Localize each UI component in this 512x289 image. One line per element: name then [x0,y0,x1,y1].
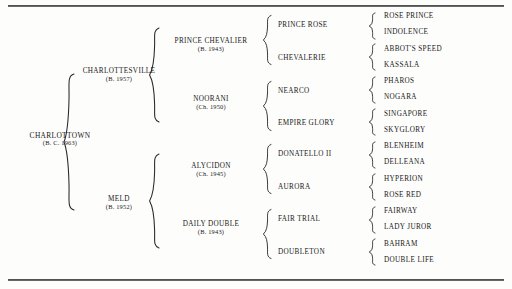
pedigree-node-kassala: KASSALA [384,62,494,70]
node-year: (B. 1943) [164,229,258,236]
node-year: (B. C. 1963) [10,140,110,147]
pedigree-node-meld: MELD (B. 1952) [70,196,168,211]
node-name: INDOLENCE [384,29,494,37]
pedigree-node-prince-chevalier: PRINCE CHEVALIER (B. 1943) [164,38,258,53]
pedigree-node-fair-trial: FAIR TRIAL [278,216,364,224]
node-name: DOUBLE LIFE [384,257,494,265]
pedigree-node-double-life: DOUBLE LIFE [384,257,494,265]
brace-daily-double-to-gen4 [262,208,273,260]
node-name: NEARCO [278,88,364,96]
node-name: DOUBLETON [278,249,364,257]
brace-doubleton-to-gen5 [368,238,377,266]
node-name: FAIR TRIAL [278,216,364,224]
node-name: ROSE PRINCE [384,13,494,21]
node-name: CHEVALERIE [278,55,364,63]
pedigree-node-nogara: NOGARA [384,94,494,102]
node-name: HYPERION [384,176,494,184]
pedigree-node-blenheim: BLENHEIM [384,143,494,151]
bottom-horizontal-rule [8,279,504,281]
brace-fair-trial-to-gen5 [368,206,377,234]
node-year: (B. 1943) [164,46,258,53]
node-name: DELLEANA [384,159,494,167]
pedigree-node-charlottown: CHARLOTTOWN (B. C. 1963) [10,132,110,147]
node-name: ROSE RED [384,192,494,200]
brace-prince-chevalier-to-gen4 [262,14,273,66]
node-name: FAIRWAY [384,208,494,216]
node-name: KASSALA [384,62,494,70]
node-name: SKYGLORY [384,127,494,135]
pedigree-node-delleana: DELLEANA [384,159,494,167]
node-name: NOGARA [384,94,494,102]
node-name: PHAROS [384,78,494,86]
pedigree-node-singapore: SINGAPORE [384,111,494,119]
node-name: BAHRAM [384,241,494,249]
node-year: (Ch. 1950) [164,104,258,111]
pedigree-node-prince-rose: PRINCE ROSE [278,22,364,30]
node-name: ABBOT'S SPEED [384,46,494,54]
brace-prince-rose-to-gen5 [368,12,377,40]
pedigree-node-indolence: INDOLENCE [384,29,494,37]
pedigree-node-donatello-ii: DONATELLO II [278,151,364,159]
node-year: (B. 1957) [70,76,168,83]
node-name: PRINCE ROSE [278,22,364,30]
pedigree-node-chevalerie: CHEVALERIE [278,55,364,63]
node-name: DONATELLO II [278,151,364,159]
pedigree-node-rose-prince: ROSE PRINCE [384,13,494,21]
pedigree-node-rose-red: ROSE RED [384,192,494,200]
brace-chevalerie-to-gen5 [368,43,377,71]
brace-nearco-to-gen5 [368,76,377,104]
pedigree-node-bahram: BAHRAM [384,241,494,249]
pedigree-node-doubleton: DOUBLETON [278,249,364,257]
pedigree-node-charlottesville: CHARLOTTESVILLE (B. 1957) [70,68,168,83]
node-name: AURORA [278,184,364,192]
pedigree-node-pharos: PHAROS [384,78,494,86]
brace-aurora-to-gen5 [368,173,377,201]
pedigree-node-alycidon: ALYCIDON (Ch. 1945) [164,163,258,178]
node-year: (B. 1952) [70,204,168,211]
pedigree-node-daily-double: DAILY DOUBLE (B. 1943) [164,221,258,236]
brace-donatello-ii-to-gen5 [368,141,377,169]
pedigree-node-aurora: AURORA [278,184,364,192]
pedigree-node-noorani: NOORANI (Ch. 1950) [164,96,258,111]
node-name: LADY JUROR [384,224,494,232]
brace-alycidon-to-gen4 [262,143,273,195]
pedigree-node-skyglory: SKYGLORY [384,127,494,135]
pedigree-chart: CHARLOTTOWN (B. C. 1963) CHARLOTTESVILLE… [0,0,512,289]
top-horizontal-rule [8,5,504,7]
pedigree-node-abbots-speed: ABBOT'S SPEED [384,46,494,54]
pedigree-node-nearco: NEARCO [278,88,364,96]
pedigree-node-empire-glory: EMPIRE GLORY [278,120,364,128]
pedigree-node-fairway: FAIRWAY [384,208,494,216]
brace-empire-glory-to-gen5 [368,108,377,136]
node-name: SINGAPORE [384,111,494,119]
node-name: EMPIRE GLORY [278,120,364,128]
pedigree-node-hyperion: HYPERION [384,176,494,184]
node-name: BLENHEIM [384,143,494,151]
pedigree-node-lady-juror: LADY JUROR [384,224,494,232]
node-year: (Ch. 1945) [164,171,258,178]
brace-noorani-to-gen4 [262,80,273,132]
